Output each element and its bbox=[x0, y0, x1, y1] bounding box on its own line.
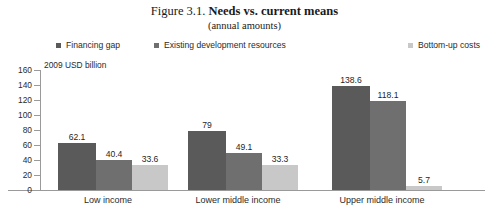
bar-value-label: 62.1 bbox=[52, 132, 102, 142]
y-axis-tick-label: 60 bbox=[2, 141, 32, 150]
y-axis-tick-label: 160 bbox=[2, 66, 32, 75]
figure-number: Figure 3.1. bbox=[151, 4, 209, 18]
x-axis-category-label: Upper middle income bbox=[312, 194, 452, 206]
bar bbox=[188, 131, 226, 190]
figure-title-main: Needs vs. current means bbox=[209, 4, 339, 18]
bar-value-label: 33.3 bbox=[256, 154, 304, 164]
bar bbox=[406, 186, 442, 190]
chart-legend: Financing gap Existing development resou… bbox=[0, 40, 489, 52]
legend-item-label: Financing gap bbox=[66, 40, 120, 50]
bar bbox=[96, 160, 132, 190]
y-axis-tick-label: 0 bbox=[2, 186, 32, 195]
figure-container: Figure 3.1. Needs vs. current means (ann… bbox=[0, 0, 489, 223]
x-axis-category-label: Lower middle income bbox=[168, 194, 308, 206]
bar-value-label: 118.1 bbox=[364, 90, 412, 100]
y-axis-tick-label: 40 bbox=[2, 156, 32, 165]
bar-value-label: 79 bbox=[182, 120, 232, 130]
bars-plot-area: 62.140.433.67949.133.3138.6118.15.7 bbox=[40, 70, 485, 190]
y-axis-unit-label: 2009 USD billion bbox=[44, 60, 106, 70]
legend-swatch-icon bbox=[56, 43, 61, 48]
bar-value-label: 138.6 bbox=[326, 75, 376, 85]
bar-value-label: 33.6 bbox=[126, 154, 174, 164]
x-axis-category-label: Low income bbox=[38, 194, 178, 206]
bar-value-label: 49.1 bbox=[220, 142, 268, 152]
bar-value-label: 5.7 bbox=[400, 175, 448, 185]
bar bbox=[132, 165, 168, 190]
legend-item-bottom-up-costs: Bottom-up costs bbox=[408, 40, 480, 50]
y-axis-tick-label: 120 bbox=[2, 96, 32, 105]
y-axis-tick-label: 140 bbox=[2, 81, 32, 90]
figure-title-block: Figure 3.1. Needs vs. current means (ann… bbox=[0, 4, 489, 32]
y-axis-tick bbox=[34, 190, 40, 191]
y-axis-tick-label: 20 bbox=[2, 171, 32, 180]
figure-title: Figure 3.1. Needs vs. current means bbox=[0, 4, 489, 19]
legend-item-label: Existing development resources bbox=[164, 40, 286, 50]
bar bbox=[262, 165, 298, 190]
bar bbox=[332, 86, 370, 190]
legend-item-label: Bottom-up costs bbox=[418, 40, 480, 50]
legend-item-financing-gap: Financing gap bbox=[56, 40, 120, 50]
legend-item-existing-development-resources: Existing development resources bbox=[154, 40, 286, 50]
y-axis-tick-label: 80 bbox=[2, 126, 32, 135]
legend-swatch-icon bbox=[154, 43, 159, 48]
legend-swatch-icon bbox=[408, 43, 413, 48]
y-axis-tick-label: 100 bbox=[2, 111, 32, 120]
figure-subtitle: (annual amounts) bbox=[0, 19, 489, 32]
x-axis-line bbox=[8, 190, 485, 191]
